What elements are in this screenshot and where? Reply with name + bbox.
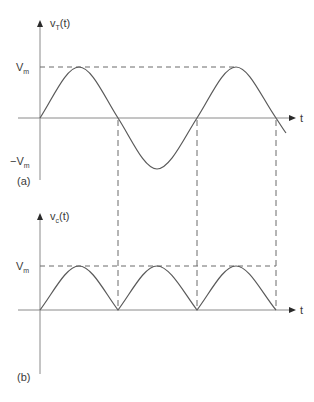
panel-b: vc(t) t Vm (b): [16, 210, 303, 383]
panel-a-y-label: vT(t): [50, 17, 70, 31]
panel-b-rectified-curve: [40, 266, 276, 310]
panel-b-y-label: vc(t): [50, 210, 69, 224]
waveform-diagram: vT(t) t Vm −Vm (a) vc(t) t Vm (b): [0, 0, 314, 402]
panel-b-tag: (b): [17, 371, 30, 383]
panel-a-y-arrow-icon: [37, 20, 43, 27]
panel-b-y-arrow-icon: [37, 213, 43, 220]
panel-b-t-arrow-icon: [289, 307, 296, 313]
zero-crossing-guides: [118, 120, 276, 310]
panel-a-vm-label: Vm: [16, 61, 29, 75]
panel-a-t-arrow-icon: [289, 115, 296, 121]
panel-a-t-label: t: [300, 112, 303, 124]
panel-a-neg-vm-label: −Vm: [10, 155, 30, 169]
panel-b-vm-label: Vm: [16, 260, 29, 274]
panel-b-t-label: t: [300, 304, 303, 316]
panel-a: vT(t) t Vm −Vm (a): [10, 17, 303, 187]
panel-a-tag: (a): [17, 175, 30, 187]
